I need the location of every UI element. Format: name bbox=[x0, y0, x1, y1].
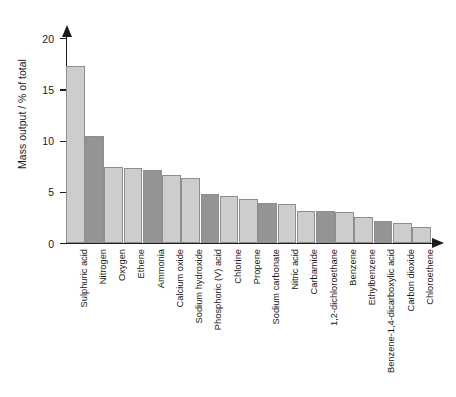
x-axis-label: Oxygen bbox=[117, 249, 127, 281]
y-tick-label-10: 10 bbox=[14, 135, 54, 147]
bar bbox=[278, 204, 297, 243]
x-axis-label: Nitric acid bbox=[290, 249, 300, 290]
y-tick-label-20: 20 bbox=[14, 33, 54, 45]
bar bbox=[104, 167, 123, 243]
x-axis-label: Ammonia bbox=[156, 249, 166, 288]
x-axis-label: Sodium hydroxide bbox=[194, 249, 204, 323]
plot-area bbox=[66, 38, 440, 243]
bar bbox=[316, 211, 335, 243]
bar bbox=[201, 194, 220, 243]
x-axis-label: Carbamide bbox=[309, 249, 319, 294]
x-axis-label: Chlorine bbox=[233, 249, 243, 284]
x-axis-label: Nitrogen bbox=[98, 249, 108, 284]
bar bbox=[354, 217, 373, 243]
x-axis-label: Propene bbox=[252, 249, 262, 284]
bar bbox=[85, 136, 104, 243]
bar bbox=[258, 203, 277, 243]
bar bbox=[66, 66, 85, 243]
y-axis-arrow-icon bbox=[62, 25, 72, 37]
bar bbox=[239, 199, 258, 243]
y-tick-label-0: 0 bbox=[14, 238, 54, 250]
bar bbox=[335, 212, 354, 243]
y-axis-title: Mass output / % of total bbox=[16, 29, 28, 199]
bar-chart: Mass output / % of total 05101520 Sulphu… bbox=[0, 0, 456, 397]
bar bbox=[181, 178, 200, 243]
y-tick-0 bbox=[60, 243, 66, 244]
bar bbox=[124, 168, 143, 243]
x-axis-label: Sulphuric acid bbox=[79, 249, 89, 307]
bar bbox=[297, 211, 316, 243]
x-axis-label: 1,2-dichloroethane bbox=[329, 249, 339, 326]
x-axis-label: Ethene bbox=[136, 249, 146, 278]
x-axis-label: Benzene bbox=[348, 249, 358, 286]
y-tick-label-5: 5 bbox=[14, 186, 54, 198]
x-axis-label: Ethylbenzene bbox=[367, 249, 377, 305]
x-axis-label: Calcium oxide bbox=[175, 249, 185, 307]
bar bbox=[143, 170, 162, 243]
x-axis-label: Phosphoric (V) acid bbox=[213, 249, 223, 330]
x-axis-label: Benzene-1,4-dicarboxylic acid bbox=[386, 249, 396, 373]
bar bbox=[412, 227, 431, 243]
bar bbox=[374, 221, 393, 243]
x-axis-label: Chloroethene bbox=[425, 249, 435, 305]
bar bbox=[220, 196, 239, 243]
bar bbox=[393, 223, 412, 244]
y-tick-label-15: 15 bbox=[14, 84, 54, 96]
x-axis-label: Carbon dioxide bbox=[406, 249, 416, 312]
bar bbox=[162, 175, 181, 243]
x-axis-label: Sodium carbonate bbox=[271, 249, 281, 324]
